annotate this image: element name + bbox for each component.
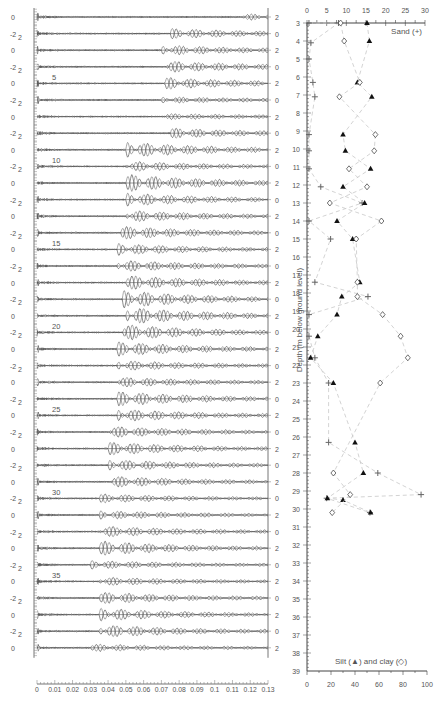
series-triangle xyxy=(308,20,375,515)
amplitude-tick-label: 0 xyxy=(11,412,15,419)
amplitude-tick-label: 0 xyxy=(275,263,279,270)
silt-triangle-marker xyxy=(368,166,374,171)
amplitude-tick-label: 0 xyxy=(11,246,15,253)
depth-tick-label: 11 xyxy=(293,164,300,171)
amplitude-tick-label: 2 xyxy=(275,512,279,519)
time-tick-label: 0.02 xyxy=(66,686,79,693)
clay-diamond-marker xyxy=(373,132,378,138)
depth-tick-label: 23 xyxy=(292,380,300,387)
waveform-trace: 02 xyxy=(11,109,279,125)
waveform-trace: -220 xyxy=(10,358,279,374)
amplitude-tick-label: -2 xyxy=(10,97,16,104)
amplitude-tick-label: 2 xyxy=(18,67,22,74)
sand-plus-marker xyxy=(326,380,332,386)
amplitude-tick-label: 0 xyxy=(275,628,279,635)
waveform-trace: 02 xyxy=(11,441,279,457)
sand-tick-label: 10 xyxy=(342,7,350,14)
depth-tick-label: 33 xyxy=(292,560,300,567)
depth-tick-label: 35 xyxy=(292,596,300,603)
amplitude-tick-label: 0 xyxy=(275,396,279,403)
clay-diamond-marker xyxy=(372,148,377,154)
amplitude-tick-label: 0 xyxy=(275,363,279,370)
amplitude-tick-label: -2 xyxy=(10,495,16,502)
time-tick-label: 0.01 xyxy=(48,686,61,693)
amplitude-tick-label: 0 xyxy=(11,346,15,353)
amplitude-tick-label: 2 xyxy=(275,346,279,353)
amplitude-tick-label: 2 xyxy=(18,465,22,472)
amplitude-tick-label: 2 xyxy=(18,598,22,605)
amplitude-tick-label: 0 xyxy=(11,14,15,21)
amplitude-tick-label: 2 xyxy=(18,366,22,373)
amplitude-tick-label: 2 xyxy=(275,14,279,21)
clay-diamond-marker xyxy=(379,218,384,224)
waveform-trace: -220 xyxy=(10,192,279,208)
amplitude-tick-label: -2 xyxy=(10,31,16,38)
clay-diamond-marker xyxy=(355,279,360,285)
amplitude-tick-label: 0 xyxy=(11,479,15,486)
amplitude-tick-label: 2 xyxy=(18,399,22,406)
clay-diamond-marker xyxy=(405,355,410,361)
amplitude-tick-label: 0 xyxy=(11,147,15,154)
clay-diamond-marker xyxy=(355,294,360,300)
sand-plus-marker xyxy=(308,40,314,46)
amplitude-tick-label: -2 xyxy=(10,263,16,270)
amplitude-tick-label: 2 xyxy=(18,532,22,539)
amplitude-tick-label: -2 xyxy=(10,529,16,536)
amplitude-tick-label: -2 xyxy=(10,628,16,635)
depth-tick-label: 5 xyxy=(296,56,300,63)
depth-tick-label: 31 xyxy=(292,524,300,531)
amplitude-tick-label: 0 xyxy=(11,114,15,121)
silt-triangle-marker xyxy=(367,38,373,43)
amplitude-tick-label: -2 xyxy=(10,363,16,370)
depth-tick-label: 28 xyxy=(292,470,300,477)
depth-tick-label: 32 xyxy=(292,542,300,549)
amplitude-tick-label: 0 xyxy=(11,213,15,220)
amplitude-tick-label: 0 xyxy=(275,31,279,38)
sand-plus-marker xyxy=(375,470,381,476)
amplitude-tick-label: 0 xyxy=(275,562,279,569)
depth-tick-label: 12 xyxy=(292,182,300,189)
time-tick-label: 0.04 xyxy=(101,686,114,693)
trace-number-label: 15 xyxy=(52,239,60,248)
amplitude-tick-label: 2 xyxy=(18,299,22,306)
sand-axis-title: Sand (+) xyxy=(391,27,422,36)
silt-triangle-marker xyxy=(343,148,349,153)
amplitude-tick-label: 0 xyxy=(275,64,279,71)
amplitude-tick-label: 2 xyxy=(18,233,22,240)
amplitude-tick-label: 2 xyxy=(275,645,279,652)
silt-triangle-marker xyxy=(315,333,321,338)
silt-clay-tick-label: 100 xyxy=(421,681,433,688)
amplitude-tick-label: 0 xyxy=(11,645,15,652)
time-tick-label: 0.09 xyxy=(190,686,203,693)
amplitude-tick-label: 2 xyxy=(18,34,22,41)
silt-triangle-marker xyxy=(340,184,346,189)
waveform-trace: -220 xyxy=(10,125,279,141)
amplitude-tick-label: 2 xyxy=(18,266,22,273)
depth-tick-label: 14 xyxy=(292,218,300,225)
sand-tick-label: 25 xyxy=(401,7,409,14)
amplitude-tick-label: 0 xyxy=(11,80,15,87)
depth-tick-label: 7 xyxy=(296,92,300,99)
amplitude-tick-label: -2 xyxy=(10,296,16,303)
amplitude-tick-label: 0 xyxy=(275,163,279,170)
sand-plus-marker xyxy=(318,184,324,190)
amplitude-tick-label: -2 xyxy=(10,429,16,436)
amplitude-tick-label: 0 xyxy=(275,197,279,204)
silt-clay-tick-label: 80 xyxy=(399,681,407,688)
amplitude-tick-label: 0 xyxy=(275,230,279,237)
amplitude-tick-label: 0 xyxy=(11,446,15,453)
amplitude-tick-label: -2 xyxy=(10,230,16,237)
depth-tick-label: 3 xyxy=(296,20,300,27)
amplitude-tick-label: 2 xyxy=(18,565,22,572)
waveform-trace: 02 xyxy=(11,640,279,656)
waveform-line xyxy=(37,292,268,307)
amplitude-tick-label: 2 xyxy=(18,200,22,207)
silt-clay-tick-label: 40 xyxy=(351,681,359,688)
depth-tick-label: 36 xyxy=(292,614,300,621)
depth-tick-label: 4 xyxy=(296,38,300,45)
amplitude-tick-label: 2 xyxy=(275,213,279,220)
sand-tick-label: 15 xyxy=(362,7,370,14)
amplitude-tick-label: 2 xyxy=(275,612,279,619)
amplitude-tick-label: 2 xyxy=(275,47,279,54)
depth-tick-label: 30 xyxy=(292,506,300,513)
